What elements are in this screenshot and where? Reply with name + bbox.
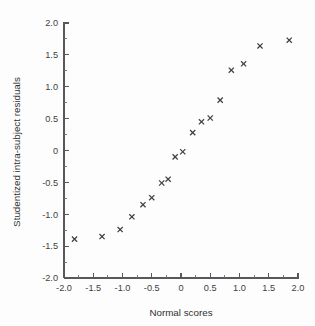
normal-probability-plot: -2.0-1.5-1.0-0.500.51.01.52.0-2.0-1.5-1.… — [0, 0, 315, 326]
data-point — [229, 68, 234, 73]
x-axis-tick-label: 0 — [178, 283, 183, 293]
data-point — [241, 61, 246, 66]
y-axis-tick-label: -1.5 — [42, 241, 58, 251]
data-point — [190, 130, 195, 135]
data-point — [218, 98, 223, 103]
data-point — [149, 195, 154, 200]
plot-area: -2.0-1.5-1.0-0.500.51.01.52.0-2.0-1.5-1.… — [0, 0, 315, 326]
data-points-group — [72, 38, 292, 242]
y-axis-tick-label: -0.5 — [42, 178, 58, 188]
y-axis-tick-label: 0 — [53, 146, 58, 156]
data-point — [72, 237, 77, 242]
x-axis-tick-label: -1.5 — [85, 283, 101, 293]
x-axis-title: Normal scores — [149, 307, 212, 318]
data-point — [173, 154, 178, 159]
data-point — [180, 149, 185, 154]
data-point — [287, 38, 292, 43]
x-axis-tick-label: -1.0 — [115, 283, 131, 293]
y-axis-tick-label: 0.5 — [45, 114, 58, 124]
data-point — [159, 180, 164, 185]
y-axis-tick-label: -1.0 — [42, 210, 58, 220]
y-axis-title: Studentized intra-subject residuals — [11, 77, 22, 227]
data-point — [118, 227, 123, 232]
data-point — [140, 202, 145, 207]
data-point — [257, 43, 262, 48]
x-axis-tick-label: 2.0 — [292, 283, 305, 293]
x-axis-tick-label: -0.5 — [144, 283, 160, 293]
y-axis-tick-label: -2.0 — [42, 273, 58, 283]
data-point — [99, 234, 104, 239]
data-point — [166, 177, 171, 182]
x-axis-tick-label: -2.0 — [56, 283, 72, 293]
y-axis-tick-label: 2.0 — [45, 18, 58, 28]
y-axis-tick-label: 1.5 — [45, 50, 58, 60]
x-axis-tick-label: 1.0 — [233, 283, 246, 293]
x-axis-tick-label: 0.5 — [204, 283, 217, 293]
x-axis-tick-label: 1.5 — [262, 283, 275, 293]
y-axis-tick-label: 1.0 — [45, 82, 58, 92]
data-point — [129, 214, 134, 219]
data-point — [208, 115, 213, 120]
data-point — [199, 119, 204, 124]
